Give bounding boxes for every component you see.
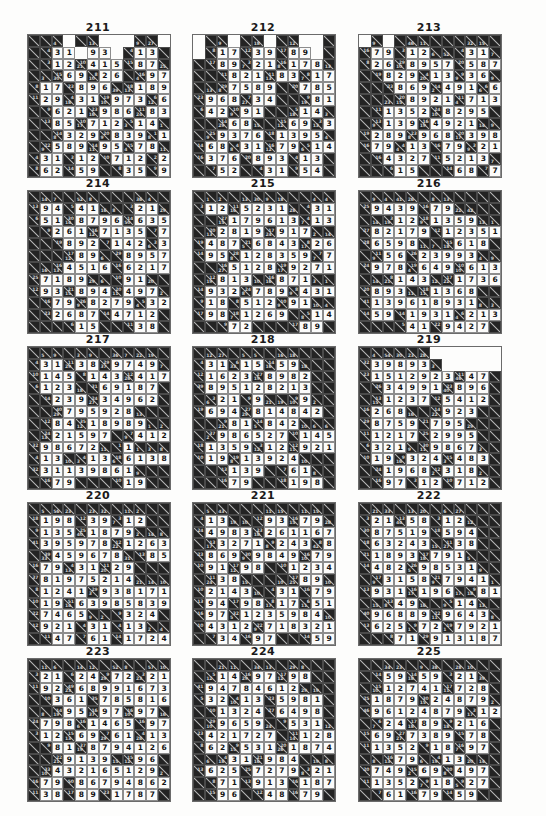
answer-digit: 7 [407, 684, 417, 694]
answer-digit: 3 [253, 95, 263, 105]
clue-cell: 139 [371, 118, 383, 130]
answer-cell: 2 [252, 609, 264, 621]
answer-cell: 5 [111, 59, 123, 71]
down-clue-sum: 3 [491, 303, 494, 308]
clue-cell [359, 94, 371, 106]
answer-cell: 7 [383, 418, 395, 430]
answer-digit: 8 [229, 227, 239, 237]
answer-digit: 1 [300, 298, 310, 308]
down-clue-sum: 7 [301, 220, 304, 225]
clue-cell: 1 [158, 118, 170, 130]
answer-cell: 8 [264, 371, 276, 383]
answer-cell: 7 [383, 262, 395, 274]
down-clue-sum: 12 [206, 676, 212, 681]
answer-cell: 5 [276, 694, 288, 706]
answer-digit: 2 [135, 516, 145, 526]
answer-digit: 1 [289, 383, 299, 393]
answer-digit: 9 [289, 551, 299, 561]
across-clue-sum: 3 [319, 119, 322, 124]
answer-digit: 2 [300, 372, 310, 382]
clue-cell: 14 [40, 394, 52, 406]
down-clue-sum: 5 [41, 509, 44, 514]
answer-cell: 7 [134, 141, 146, 153]
answer-digit: 9 [112, 743, 122, 753]
answer-cell: 1 [134, 742, 146, 754]
answer-cell: 1 [383, 515, 395, 527]
answer-digit: 9 [478, 131, 488, 141]
across-clue-sum: 6 [236, 360, 239, 365]
clue-cell: 727 [240, 94, 252, 106]
answer-cell: 3 [240, 465, 252, 477]
diagonal-divider-icon [489, 789, 501, 801]
clue-cell [489, 35, 501, 47]
clue-cell [146, 477, 158, 489]
answer-cell: 8 [394, 609, 406, 621]
down-clue-sum: 21 [218, 665, 224, 670]
across-clue-sum: 4 [35, 360, 38, 365]
across-clue-sum: 12 [434, 396, 440, 401]
answer-cell: 8 [477, 683, 489, 695]
answer-digit: 1 [324, 622, 334, 632]
down-clue-sum: 32 [100, 509, 106, 514]
answer-digit: 2 [478, 622, 488, 632]
clue-cell: 122 [430, 465, 442, 477]
clue-cell [442, 659, 454, 671]
blank-cell [111, 35, 123, 47]
answer-digit: 2 [218, 204, 228, 214]
answer-digit: 6 [88, 551, 98, 561]
answer-cell: 7 [87, 215, 99, 227]
down-clue-sum: 29 [242, 412, 248, 417]
clue-cell: 13 [406, 503, 418, 515]
clue-cell: 66 [477, 82, 489, 94]
answer-digit: 4 [395, 599, 405, 609]
clue-cell: 179 [371, 574, 383, 586]
answer-cell: 3 [406, 394, 418, 406]
clue-cell: 16 [371, 477, 383, 489]
answer-digit: 2 [112, 563, 122, 573]
clue-cell: 14 [371, 274, 383, 286]
down-clue-sum: 2 [100, 615, 103, 620]
answer-digit: 2 [466, 322, 476, 332]
answer-digit: 8 [265, 419, 275, 429]
across-clue-sum: 11 [221, 72, 227, 77]
answer-cell: 4 [394, 598, 406, 610]
down-clue-sum: 9 [289, 291, 292, 296]
clue-cell: 219 [430, 574, 442, 586]
answer-cell: 3 [146, 297, 158, 309]
answer-cell: 8 [276, 274, 288, 286]
answer-cell: 1 [217, 562, 229, 574]
answer-cell: 1 [40, 730, 52, 742]
clue-cell: 8 [430, 191, 442, 203]
answer-cell: 8 [406, 94, 418, 106]
down-clue-sum: 9 [420, 665, 423, 670]
answer-cell: 8 [311, 706, 323, 718]
answer-cell: 1 [123, 683, 135, 695]
diagonal-divider-icon [489, 538, 501, 550]
clue-cell [418, 191, 430, 203]
clue-cell: 293 [87, 586, 99, 598]
answer-cell: 1 [276, 621, 288, 633]
answer-cell: 9 [454, 706, 466, 718]
answer-digit: 7 [229, 48, 239, 58]
answer-digit: 8 [147, 142, 157, 152]
answer-cell: 6 [63, 694, 75, 706]
answer-cell: 8 [252, 153, 264, 165]
answer-digit: 3 [53, 287, 63, 297]
answer-cell: 4 [205, 621, 217, 633]
answer-digit: 3 [466, 407, 476, 417]
answer-digit: 2 [277, 383, 287, 393]
answer-digit: 8 [300, 695, 310, 705]
clue-cell: 17 [193, 309, 205, 321]
answer-digit: 7 [466, 275, 476, 285]
answer-digit: 9 [372, 204, 382, 214]
across-clue-sum: 16 [115, 263, 121, 268]
answer-cell: 2 [252, 730, 264, 742]
answer-digit: 3 [135, 95, 145, 105]
answer-cell: 2 [63, 106, 75, 118]
down-clue-sum: 11 [431, 615, 437, 620]
answer-digit: 6 [419, 766, 429, 776]
down-clue-sum: 46 [408, 41, 414, 46]
answer-cell: 1 [205, 371, 217, 383]
down-clue-sum: 28 [289, 208, 295, 213]
answer-digit: 8 [218, 142, 228, 152]
